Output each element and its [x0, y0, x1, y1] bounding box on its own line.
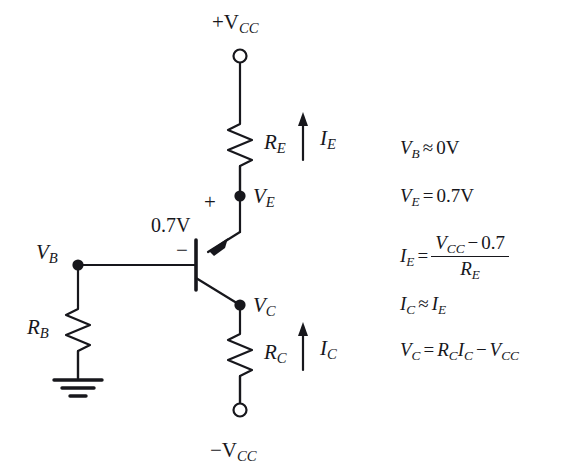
bottom-supply-terminal-icon [234, 404, 247, 417]
node-dot-vb [72, 259, 83, 270]
node-dot-ve [234, 190, 245, 201]
equation-vb: VB≈0V [400, 138, 459, 160]
label-current-ie: IE [320, 128, 336, 152]
pnp-emitter-arrowhead-icon [209, 238, 228, 256]
label-bottom-supply: −VCC [210, 440, 256, 464]
equation-ic: IC≈IE [400, 294, 446, 316]
arrowhead-ic [298, 322, 308, 336]
equation-ve: VE=0.7V [400, 186, 474, 208]
label-resistor-rc: RC [264, 342, 286, 366]
collector-lead [196, 278, 240, 305]
label-top-supply: +VCC [212, 12, 258, 36]
label-resistor-re: RE [264, 132, 286, 156]
equation-ie: IE=VCC−0.7RE [400, 234, 509, 282]
arrowhead-ie [298, 112, 308, 126]
circuit-diagram-page: +VCC −VCC RE RC RB VE VC VB IE IC + 0.7V… [0, 0, 565, 470]
label-vbe-value: 0.7V [151, 215, 190, 235]
top-supply-terminal-icon [234, 50, 247, 63]
label-resistor-rb: RB [27, 317, 49, 341]
label-node-vc: VC [253, 295, 275, 319]
label-vbe-minus: − [176, 240, 188, 261]
label-current-ic: IC [320, 338, 337, 362]
equation-vc: VC=RCIC−VCC [400, 340, 519, 362]
label-node-vb: VB [36, 242, 58, 266]
node-dot-vc [234, 299, 245, 310]
label-vbe-plus: + [204, 192, 216, 213]
label-node-ve: VE [253, 186, 275, 210]
